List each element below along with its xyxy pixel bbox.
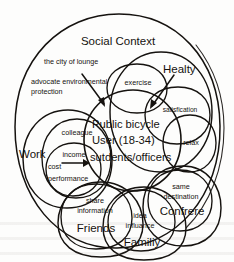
- annotation-income: income: [62, 150, 85, 159]
- venn-diagram-canvas: Social Context the city of lounge advoca…: [0, 0, 234, 262]
- annotation-cost-performance-line1: cost: [48, 162, 61, 171]
- annotation-relax: relax: [183, 138, 199, 147]
- social-context-venn-diagram: Social Context the city of lounge advoca…: [0, 0, 234, 262]
- exercise-circle: [107, 64, 167, 113]
- cluster-label-friends: Friends: [77, 222, 116, 234]
- annotation-share-information-line2: information: [77, 206, 113, 215]
- annotation-idea-influance-line1: idea: [133, 211, 147, 220]
- annotation-cost-performance-line2: performance: [48, 174, 88, 183]
- annotation-colleague: colleague: [62, 128, 93, 137]
- center-text-line1: Public bicycle: [92, 118, 160, 130]
- annotation-city-of-lounge: the city of lounge: [44, 57, 98, 66]
- center-text-line2: User (18-34): [92, 134, 155, 146]
- annotation-same-destination-line1: same: [172, 182, 190, 191]
- annotation-exercise: exercise: [125, 78, 152, 87]
- annotation-same-destination-line2: destination: [164, 192, 199, 201]
- center-text-line3: sutdents/officers: [90, 151, 172, 163]
- cluster-label-familiy: Familiy: [124, 236, 161, 248]
- annotation-share-information-line1: share: [86, 196, 104, 205]
- cluster-label-work: Work: [19, 148, 46, 160]
- annotation-idea-influance-line2: influance: [126, 221, 155, 230]
- arrow-cost-to-center: [62, 159, 90, 167]
- cluster-label-healty: Healty: [163, 63, 196, 75]
- cluster-label-confrere: Confrere: [160, 205, 205, 217]
- annotation-satisfication: satisfication: [163, 106, 198, 113]
- diagram-title: Social Context: [81, 35, 156, 47]
- annotation-advocate-environmental-line1: advocate environmental: [31, 77, 108, 86]
- annotation-advocate-environmental-line2: protection: [31, 87, 63, 96]
